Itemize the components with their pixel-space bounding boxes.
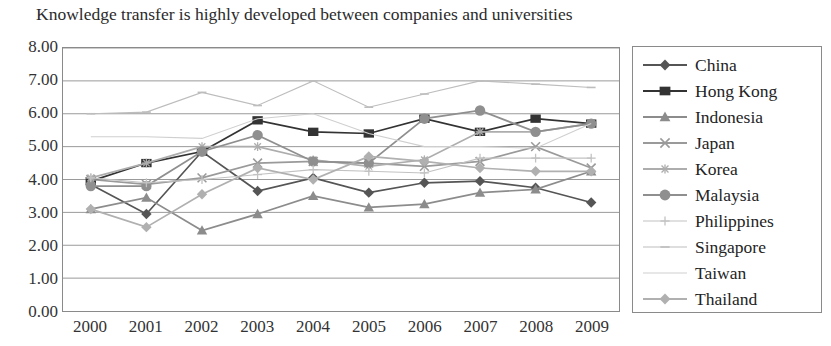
legend-item-indonesia[interactable]: Indonesia (633, 104, 821, 130)
data-point-marker (475, 176, 485, 186)
legend-item-philippines[interactable]: Philippines (633, 208, 821, 234)
legend-label: Indonesia (695, 107, 763, 127)
data-point-marker (86, 181, 96, 191)
data-point-marker (660, 294, 671, 305)
legend-marker-asterisk-icon (642, 159, 688, 179)
series-line (91, 110, 591, 186)
data-point-marker (308, 128, 318, 136)
x-axis-tick-labels: 2000200120022003200420052006200720082009 (62, 314, 620, 344)
legend-item-korea[interactable]: Korea (633, 156, 821, 182)
legend-label: Japan (695, 133, 735, 153)
data-point-marker (309, 165, 318, 174)
data-point-marker (141, 222, 151, 232)
legend-marker-square-icon (642, 81, 688, 101)
data-point-marker (530, 127, 540, 137)
y-axis-tick-labels: 8.007.006.005.004.003.002.001.000.00 (0, 0, 58, 346)
data-point-marker (587, 154, 596, 163)
data-point-marker (364, 187, 374, 197)
y-axis-tick-label: 3.00 (6, 204, 58, 221)
legend-label: Hong Kong (695, 81, 777, 101)
data-point-marker (476, 127, 485, 136)
legend-item-hong-kong[interactable]: Hong Kong (633, 78, 821, 104)
series-line (91, 119, 591, 181)
data-point-marker (660, 87, 671, 96)
legend-label: Korea (695, 159, 738, 179)
data-point-marker (660, 190, 671, 201)
legend-label: Thailand (695, 289, 757, 309)
legend-label: Singapore (695, 237, 766, 257)
y-axis-tick-label: 2.00 (6, 237, 58, 254)
y-axis-tick-label: 8.00 (6, 38, 58, 55)
x-axis-tick-label: 2005 (341, 314, 397, 344)
legend-item-malaysia[interactable]: Malaysia (633, 182, 821, 208)
data-point-marker (475, 105, 485, 115)
plot-area (62, 47, 620, 312)
chart-title: Knowledge transfer is highly developed b… (36, 4, 636, 24)
legend-item-singapore[interactable]: Singapore (633, 234, 821, 260)
data-point-marker (419, 113, 429, 123)
x-axis-tick-label: 2009 (564, 314, 620, 344)
legend-marker-diamond-icon (642, 55, 688, 75)
legend-label: Philippines (695, 211, 774, 231)
legend-label: Taiwan (695, 263, 746, 283)
data-point-marker (530, 115, 540, 123)
data-point-marker (252, 130, 262, 140)
series-line (91, 171, 591, 230)
x-axis-tick-label: 2008 (508, 314, 564, 344)
legend-item-taiwan[interactable]: Taiwan (633, 260, 821, 286)
x-axis-tick-label: 2003 (229, 314, 285, 344)
series-singapore (86, 81, 595, 114)
legend-marker-x-icon (642, 133, 688, 153)
x-axis-tick-label: 2007 (453, 314, 509, 344)
y-axis-tick-label: 4.00 (6, 171, 58, 188)
data-point-marker (530, 166, 540, 176)
x-axis-tick-label: 2002 (174, 314, 230, 344)
legend-item-china[interactable]: China (633, 52, 821, 78)
y-axis-tick-label: 1.00 (6, 270, 58, 287)
legend-item-japan[interactable]: Japan (633, 130, 821, 156)
data-point-marker (253, 142, 262, 151)
series-line (91, 147, 591, 185)
series-line (91, 81, 591, 114)
y-axis-tick-label: 7.00 (6, 71, 58, 88)
x-axis-tick-label: 2006 (397, 314, 453, 344)
x-axis-tick-label: 2004 (285, 314, 341, 344)
plot-svg (63, 48, 619, 311)
legend-marker-line-icon (642, 263, 688, 283)
data-point-marker (197, 146, 207, 156)
legend-marker-triangle-icon (642, 107, 688, 127)
y-axis-tick-label: 0.00 (6, 303, 58, 320)
legend-label: China (695, 55, 737, 75)
legend-marker-plus-icon (642, 211, 688, 231)
data-point-marker (252, 186, 262, 196)
chart-container: Knowledge transfer is highly developed b… (0, 0, 831, 346)
legend-item-thailand[interactable]: Thailand (633, 286, 821, 312)
data-point-marker (197, 189, 207, 199)
legend-marker-circle-icon (642, 185, 688, 205)
data-point-marker (660, 216, 669, 225)
y-axis-tick-label: 6.00 (6, 104, 58, 121)
x-axis-tick-label: 2000 (62, 314, 118, 344)
data-point-marker (660, 164, 669, 173)
data-point-marker (531, 154, 540, 163)
data-point-marker (586, 197, 596, 207)
data-point-marker (660, 60, 671, 71)
data-point-marker (364, 167, 373, 176)
data-point-marker (141, 192, 151, 201)
legend: ChinaHong KongIndonesiaJapanKoreaMalaysi… (632, 46, 822, 313)
x-axis-tick-label: 2001 (118, 314, 174, 344)
data-point-marker (308, 156, 318, 166)
y-axis-tick-label: 5.00 (6, 137, 58, 154)
legend-marker-diamond-icon (642, 289, 688, 309)
legend-label: Malaysia (695, 185, 759, 205)
data-point-marker (308, 174, 318, 184)
data-point-marker (308, 191, 318, 200)
data-point-marker (142, 159, 151, 168)
legend-marker-dash-icon (642, 237, 688, 257)
